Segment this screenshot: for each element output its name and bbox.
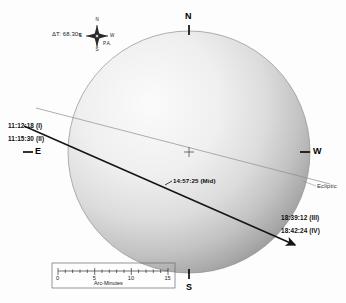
scale-tick-0: 0 xyxy=(56,276,59,282)
rose-west-label: W xyxy=(110,34,114,39)
cardinal-north-label: N xyxy=(185,12,192,21)
cardinal-south-label: S xyxy=(186,283,192,292)
cardinal-east-label: E xyxy=(35,147,41,156)
rose-position-angle-label: P.A. xyxy=(103,42,111,47)
contact-time-4: 18:42:24 (IV) xyxy=(281,228,320,234)
eclipse-diagram: ΔT: 68.30s N S E W P.A. N S E W 11:12:18… xyxy=(0,0,346,303)
cardinal-west-label: W xyxy=(313,147,322,156)
scale-tick-15: 15 xyxy=(165,276,171,282)
contact-time-2: 11:15:30 (II) xyxy=(8,136,44,142)
contact-time-1: 11:12:18 (I) xyxy=(8,123,42,129)
scale-tick-10: 10 xyxy=(128,276,134,282)
eclipse-figure-svg xyxy=(0,0,346,303)
scale-bar-ticks xyxy=(58,268,168,275)
rose-east-label: E xyxy=(79,34,82,39)
rose-south-label: S xyxy=(96,48,99,53)
ecliptic-label: Ecliptic xyxy=(317,183,337,189)
rose-north-label: N xyxy=(96,18,99,23)
mid-eclipse-label: 14:57:25 (Mid) xyxy=(173,178,216,184)
scale-caption: Arc-Minutes xyxy=(94,281,123,286)
contact-time-3: 18:39:12 (III) xyxy=(281,215,319,221)
delta-t-label: ΔT: 68.30s xyxy=(52,31,81,37)
